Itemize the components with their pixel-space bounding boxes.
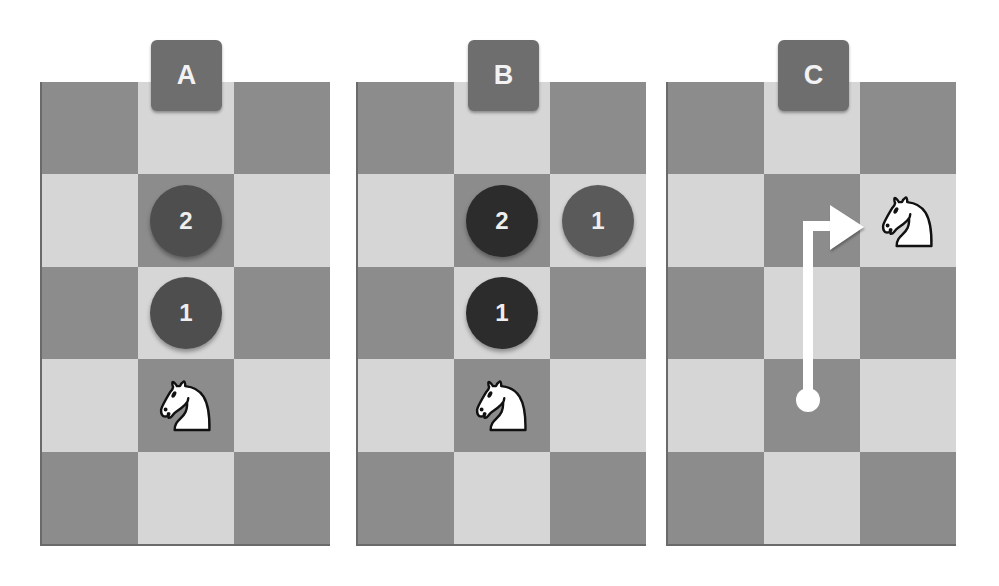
board-square — [764, 174, 860, 266]
board-square — [860, 174, 956, 266]
board-c — [666, 82, 956, 546]
white-knight-icon — [874, 186, 942, 256]
board-square — [860, 359, 956, 451]
board-square — [860, 82, 956, 174]
board-square — [668, 359, 764, 451]
board-square — [764, 267, 860, 359]
board-square — [860, 267, 956, 359]
panel-label-a: A — [151, 40, 222, 111]
board-square — [668, 267, 764, 359]
panel-label-c: C — [778, 40, 849, 111]
board-square — [764, 359, 860, 451]
board-square — [764, 452, 860, 544]
board-square — [668, 452, 764, 544]
board-square — [668, 174, 764, 266]
board-square — [860, 452, 956, 544]
board-square — [668, 82, 764, 174]
panel-label-b: B — [468, 40, 539, 111]
